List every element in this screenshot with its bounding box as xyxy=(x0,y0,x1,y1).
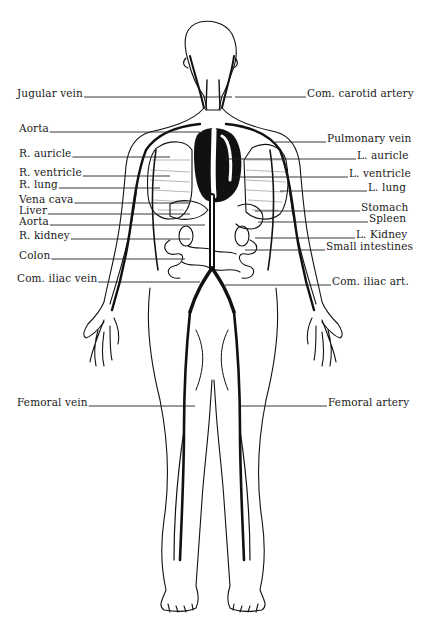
right-hand xyxy=(90,318,119,366)
label-r-auricle: R. auricle xyxy=(19,148,71,159)
label-aorta: Aorta xyxy=(19,216,49,227)
label-com-carotid-artery: Com. carotid artery xyxy=(307,88,414,99)
femoral-artery-path xyxy=(234,312,244,560)
label-r-lung: R. lung xyxy=(19,179,58,190)
left-kidney xyxy=(235,226,249,246)
torso-outline xyxy=(84,108,204,338)
iliac-vessels xyxy=(190,268,212,312)
label-liver: Liver xyxy=(19,205,47,216)
label-stomach: Stomach xyxy=(361,202,408,213)
label-l-auricle: L. auricle xyxy=(357,150,409,161)
femoral-vein-path xyxy=(180,312,190,560)
left-hand xyxy=(307,318,336,366)
label-vena-cava: Vena cava xyxy=(19,194,73,205)
label-l-kidney: L. Kidney xyxy=(356,229,407,240)
label-l-lung: L. lung xyxy=(368,182,406,193)
label-small-intestines: Small intestines xyxy=(326,241,413,252)
stomach xyxy=(236,204,263,229)
right-kidney xyxy=(179,226,193,246)
label-pulmonary-vein: Pulmonary vein xyxy=(327,133,411,144)
label-r-ventricle: R. ventricle xyxy=(19,167,82,178)
label-spleen: Spleen xyxy=(369,213,406,224)
label-com-iliac-vein: Com. iliac vein xyxy=(17,273,97,284)
label-femoral-artery: Femoral artery xyxy=(328,397,409,408)
jugular-vessels xyxy=(190,56,204,108)
label-colon: Colon xyxy=(19,250,50,261)
circulatory-diagram: Jugular veinAortaR. auricleR. ventricleR… xyxy=(0,0,425,632)
legs-outline xyxy=(148,288,212,611)
label-aorta: Aorta xyxy=(19,123,49,134)
label-l-ventricle: L. ventricle xyxy=(349,168,411,179)
label-femoral-vein: Femoral vein xyxy=(17,397,88,408)
label-r-kidney: R. kidney xyxy=(19,230,70,241)
label-jugular-vein: Jugular vein xyxy=(17,88,83,99)
heart xyxy=(194,128,241,202)
label-com-iliac-art: Com. iliac art. xyxy=(332,276,409,287)
